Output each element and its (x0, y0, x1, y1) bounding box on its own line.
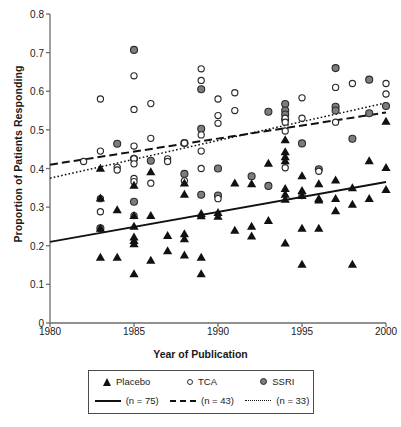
filled-triangle-icon (103, 378, 111, 386)
marker-placebo (113, 205, 122, 213)
marker-ssri (131, 198, 138, 205)
legend-label-ssri: SSRI (272, 376, 294, 387)
chart-figure: Proportion of Patients Responding Year o… (0, 0, 401, 427)
x-tick-label: 1990 (207, 326, 229, 337)
marker-tca (333, 84, 339, 90)
marker-tca (282, 128, 288, 134)
marker-ssri (215, 165, 222, 172)
marker-placebo (381, 185, 390, 193)
marker-tca (232, 90, 238, 96)
marker-ssri (366, 76, 373, 83)
legend-line-item-placebo[interactable]: (n = 75) (89, 395, 164, 406)
marker-tca (383, 80, 389, 86)
marker-tca (181, 140, 187, 146)
marker-tca (148, 180, 154, 186)
legend-n-placebo: (n = 75) (126, 395, 159, 406)
marker-ssri (131, 46, 138, 53)
marker-ssri (282, 100, 289, 107)
marker-ssri (114, 140, 121, 147)
marker-placebo (331, 206, 340, 214)
marker-ssri (299, 140, 306, 147)
marker-tca (299, 95, 305, 101)
y-tick-label: 0.7 (10, 47, 44, 58)
scatter-plot-canvas (0, 0, 401, 427)
marker-ssri (383, 102, 390, 109)
marker-tca (232, 107, 238, 113)
marker-placebo (230, 179, 239, 187)
x-axis-label: Year of Publication (0, 348, 401, 360)
marker-tca (215, 120, 221, 126)
marker-placebo (230, 226, 239, 234)
marker-placebo (264, 159, 273, 167)
marker-tca (198, 165, 204, 171)
marker-placebo (348, 200, 357, 208)
marker-placebo (331, 175, 340, 183)
marker-tca (131, 143, 137, 149)
y-tick-label: 0.2 (10, 240, 44, 251)
series-tca (81, 66, 390, 219)
legend-item-ssri[interactable]: SSRI (240, 376, 315, 387)
y-tick-label: 0.5 (10, 124, 44, 135)
marker-tca (316, 168, 322, 174)
marker-placebo (281, 238, 290, 246)
legend-item-placebo[interactable]: Placebo (89, 376, 164, 387)
marker-tca (131, 161, 137, 167)
dashed-line-icon (170, 400, 196, 402)
marker-placebo (314, 196, 323, 204)
marker-placebo (264, 216, 273, 224)
y-tick-label: 0.3 (10, 202, 44, 213)
marker-ssri (198, 86, 205, 93)
marker-placebo (197, 269, 206, 277)
marker-tca (198, 132, 204, 138)
marker-placebo (365, 156, 374, 164)
series-placebo (96, 117, 391, 278)
marker-tca (215, 196, 221, 202)
marker-placebo (314, 224, 323, 232)
marker-placebo (348, 260, 357, 268)
marker-tca (282, 119, 288, 125)
x-tick-label: 2000 (375, 326, 397, 337)
marker-placebo (247, 222, 256, 230)
gray-circle-icon (260, 378, 267, 385)
marker-placebo (247, 231, 256, 239)
marker-placebo (314, 179, 323, 187)
marker-tca (198, 66, 204, 72)
x-tick-label: 1980 (39, 326, 61, 337)
marker-tca (165, 158, 171, 164)
marker-placebo (96, 164, 105, 172)
marker-tca (148, 101, 154, 107)
marker-ssri (265, 108, 272, 115)
marker-tca (97, 209, 103, 215)
marker-placebo (163, 246, 172, 254)
marker-tca (333, 119, 339, 125)
marker-placebo (197, 253, 206, 261)
legend-line-row: (n = 75) (n = 43) (n = 33) (89, 395, 315, 406)
x-tick-label: 1995 (291, 326, 313, 337)
marker-tca (383, 91, 389, 97)
x-tick-label: 1985 (123, 326, 145, 337)
series-ssri (97, 46, 390, 231)
marker-ssri (349, 135, 356, 142)
y-axis-ticks: 00.10.20.30.40.50.60.70.8 (10, 0, 44, 427)
legend-label-placebo: Placebo (116, 376, 150, 387)
legend-line-item-ssri[interactable]: (n = 33) (240, 395, 315, 406)
marker-placebo (146, 256, 155, 264)
marker-placebo (247, 179, 256, 187)
dotted-line-icon (245, 400, 271, 401)
marker-ssri (332, 65, 339, 72)
y-tick-label: 0.6 (10, 86, 44, 97)
marker-tca (97, 148, 103, 154)
legend-n-tca: (n = 43) (201, 395, 234, 406)
marker-placebo (381, 117, 390, 125)
marker-tca (114, 167, 120, 173)
marker-ssri (198, 191, 205, 198)
legend-line-item-tca[interactable]: (n = 43) (164, 395, 239, 406)
legend-item-tca[interactable]: TCA (164, 376, 239, 387)
marker-placebo (297, 171, 306, 179)
marker-placebo (180, 190, 189, 198)
marker-ssri (265, 182, 272, 189)
marker-placebo (297, 224, 306, 232)
marker-placebo (180, 250, 189, 258)
marker-tca (131, 73, 137, 79)
marker-placebo (146, 211, 155, 219)
